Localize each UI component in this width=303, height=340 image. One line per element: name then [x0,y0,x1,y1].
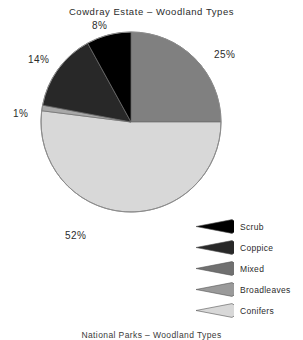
legend-swatch-coppice-icon [196,240,234,255]
legend-item-broadleaves: Broadleaves [196,279,303,300]
legend-item-mixed: Mixed [196,258,303,279]
legend-label-conifers: Conifers [240,306,274,316]
slice-label-mixed: 25% [214,49,235,60]
slice-label-scrub: 8% [92,20,107,31]
chart-legend: Scrub Coppice Mixed Broadleaves Conifers [196,216,303,321]
legend-label-coppice: Coppice [240,243,273,253]
slice-label-broadleaves: 1% [13,108,28,119]
slice-label-coppice: 14% [28,54,49,65]
slice-label-conifers: 52% [65,230,86,241]
pie-slice-conifers [41,111,221,212]
legend-swatch-conifers-icon [196,303,234,318]
legend-swatch-mixed-icon [196,261,234,276]
figure-caption: National Parks – Woodland Types [0,330,303,340]
legend-item-conifers: Conifers [196,300,303,321]
legend-label-broadleaves: Broadleaves [240,285,291,295]
pie-slice-group [41,32,221,212]
legend-item-scrub: Scrub [196,216,303,237]
legend-swatch-scrub-icon [196,219,234,234]
legend-label-scrub: Scrub [240,222,264,232]
legend-item-coppice: Coppice [196,237,303,258]
legend-swatch-broadleaves-icon [196,282,234,297]
legend-label-mixed: Mixed [240,264,264,274]
pie-slice-mixed [131,32,221,122]
